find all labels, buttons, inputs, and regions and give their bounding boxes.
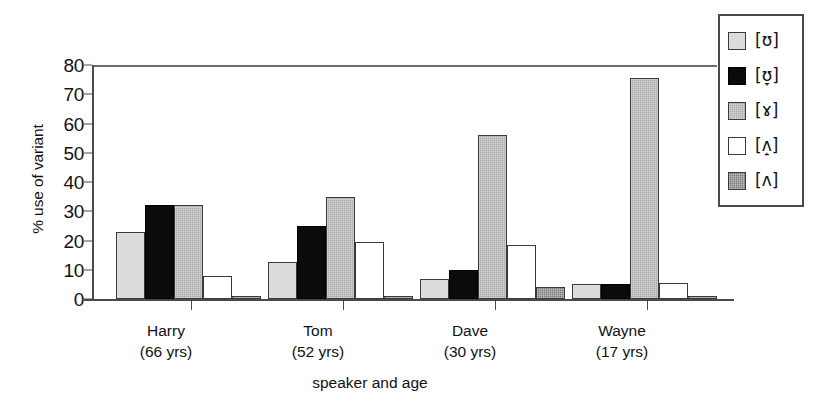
- legend-label: [ʌ]: [755, 172, 778, 189]
- bar: [536, 287, 565, 299]
- chart-legend: [ʊ][ʊ̞][ɤ][ʌ̝][ʌ]: [718, 14, 804, 207]
- bar-group: [420, 65, 570, 299]
- bar: [203, 276, 232, 299]
- legend-item: [ʊ̞]: [726, 58, 797, 93]
- bar: [572, 284, 601, 299]
- x-tick-mark: [647, 299, 648, 310]
- y-tick-label-10: 10: [36, 260, 84, 279]
- y-tick-label-40: 40: [36, 173, 84, 192]
- bar: [116, 232, 145, 299]
- legend-swatch-icon: [728, 137, 746, 155]
- bar-group: [268, 65, 418, 299]
- y-tick-mark-60: [84, 123, 92, 124]
- legend-item: [ʌ]: [726, 163, 797, 198]
- y-tick-mark-10: [84, 269, 92, 270]
- bar: [355, 242, 384, 299]
- x-axis-title: speaker and age: [0, 374, 740, 392]
- x-tick-mark: [495, 299, 496, 310]
- y-tick-label-30: 30: [36, 202, 84, 221]
- bar: [297, 226, 326, 299]
- x-category-age: (17 yrs): [547, 341, 697, 362]
- bar: [174, 205, 203, 299]
- x-category-age: (52 yrs): [243, 341, 393, 362]
- bar: [384, 296, 413, 299]
- x-category-name: Wayne: [547, 320, 697, 341]
- y-tick-mark-40: [84, 182, 92, 183]
- bar: [420, 279, 449, 299]
- y-tick-mark-20: [84, 240, 92, 241]
- x-tick-mark: [191, 299, 192, 310]
- legend-swatch-icon: [728, 32, 746, 50]
- bar: [601, 284, 630, 299]
- y-tick-label-0: 0: [36, 290, 84, 309]
- x-category-name: Harry: [91, 320, 241, 341]
- y-tick-mark-80: [84, 65, 92, 66]
- y-tick-label-50: 50: [36, 143, 84, 162]
- legend-swatch-icon: [728, 172, 746, 190]
- y-axis-line: [92, 65, 94, 299]
- x-category-name: Tom: [243, 320, 393, 341]
- plot-area: [92, 65, 717, 299]
- bar: [630, 78, 659, 299]
- bar: [478, 135, 507, 299]
- y-tick-mark-70: [84, 94, 92, 95]
- legend-item: [ɤ]: [726, 93, 797, 128]
- y-tick-label-60: 60: [36, 114, 84, 133]
- bar: [268, 262, 297, 299]
- y-tick-label-70: 70: [36, 85, 84, 104]
- legend-label: [ʌ̝]: [755, 137, 778, 154]
- bar: [232, 296, 261, 299]
- bar: [659, 283, 688, 299]
- legend-swatch-icon: [728, 102, 746, 120]
- x-category-name: Dave: [395, 320, 545, 341]
- legend-item: [ʌ̝]: [726, 128, 797, 163]
- legend-label: [ʊ]: [755, 32, 779, 49]
- y-axis-tick-labels: 01020304050607080: [36, 0, 84, 410]
- y-tick-label-80: 80: [36, 56, 84, 75]
- x-category-label: Wayne(17 yrs): [547, 320, 697, 363]
- y-tick-label-20: 20: [36, 231, 84, 250]
- bar: [449, 270, 478, 299]
- x-category-age: (30 yrs): [395, 341, 545, 362]
- x-category-age: (66 yrs): [91, 341, 241, 362]
- legend-item: [ʊ]: [726, 23, 797, 58]
- bar: [326, 197, 355, 299]
- x-category-label: Tom(52 yrs): [243, 320, 393, 363]
- legend-label: [ʊ̞]: [755, 67, 779, 84]
- y-tick-mark-0: [84, 299, 92, 300]
- legend-swatch-icon: [728, 67, 746, 85]
- bar: [688, 296, 717, 299]
- bar-group: [116, 65, 266, 299]
- y-tick-mark-30: [84, 211, 92, 212]
- bar: [507, 245, 536, 299]
- bar-group: [572, 65, 722, 299]
- legend-label: [ɤ]: [755, 102, 778, 119]
- x-tick-mark: [343, 299, 344, 310]
- y-tick-mark-50: [84, 152, 92, 153]
- x-category-label: Dave(30 yrs): [395, 320, 545, 363]
- bar: [145, 205, 174, 299]
- x-category-label: Harry(66 yrs): [91, 320, 241, 363]
- x-axis-line: [84, 299, 734, 301]
- bar-chart-figure: % use of variant 01020304050607080 speak…: [0, 0, 814, 410]
